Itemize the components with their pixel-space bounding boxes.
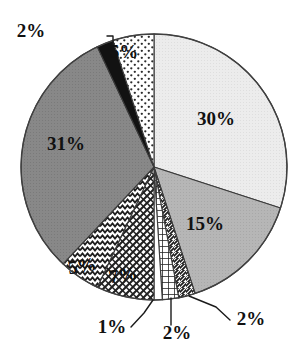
pie-label-2-diagonal: 2% (237, 308, 266, 329)
pie-label-2-grid: 2% (163, 322, 192, 343)
pie-chart-svg: 30% 15% 2% 2% 1% 7% 5% 31% 2% 5% (0, 0, 300, 357)
pie-label-5-wave: 5% (66, 253, 97, 278)
pie-label-1-blank: 1% (98, 316, 127, 337)
pie-label-5-dotted: 5% (110, 41, 139, 62)
pie-label-30: 30% (197, 108, 235, 129)
leader-line-1-blank (131, 300, 153, 327)
pie-chart-figure: 30% 15% 2% 2% 1% 7% 5% 31% 2% 5% (0, 0, 300, 357)
pie-label-2-black: 2% (17, 20, 46, 41)
pie-label-7: 7% (107, 262, 138, 287)
pie-label-15: 15% (186, 213, 224, 234)
leader-line-2-diagonal (189, 296, 230, 320)
pie-label-31: 31% (47, 133, 85, 154)
